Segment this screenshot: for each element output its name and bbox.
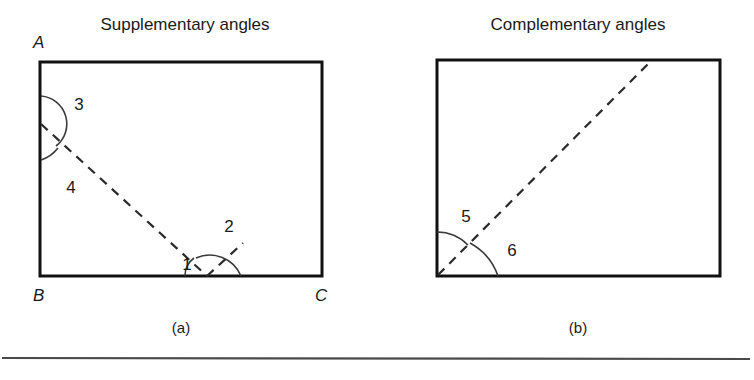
panel-a-label-angle-2: 2 [224, 217, 233, 236]
vertex-label-b: B [33, 286, 44, 305]
panel-a-arc-angle-4 [41, 148, 58, 160]
panel-a-label-angle-3: 3 [74, 95, 83, 114]
vertex-label-c: C [315, 286, 328, 305]
panel-b-dashed-diagonal [438, 64, 648, 275]
figure-canvas: Supplementary angles A 3 4 1 2 B C (a) [0, 0, 754, 380]
panel-a-label-angle-1: 1 [182, 255, 191, 274]
panel-a-arc-angle-3 [41, 96, 67, 146]
bottom-divider [2, 358, 750, 359]
panel-a-label-angle-4: 4 [66, 178, 75, 197]
panel-a-title: Supplementary angles [100, 15, 269, 34]
panel-b-rectangle [437, 60, 720, 276]
panel-a-dashed-transversal [41, 124, 207, 276]
panel-a-caption: (a) [172, 319, 190, 336]
panel-b-caption: (b) [569, 319, 587, 336]
panel-b-arc-angle-5 [437, 232, 468, 245]
panel-a-arc-angle-2 [196, 255, 241, 276]
panel-b: Complementary angles 5 6 (b) [437, 15, 720, 336]
panel-b-title: Complementary angles [491, 15, 666, 34]
panel-a: Supplementary angles A 3 4 1 2 B C (a) [32, 15, 328, 336]
vertex-label-a: A [32, 33, 44, 52]
panel-b-label-angle-6: 6 [507, 241, 516, 260]
geometry-figure: Supplementary angles A 3 4 1 2 B C (a) [0, 0, 754, 380]
panel-b-label-angle-5: 5 [461, 207, 470, 226]
panel-b-arc-angle-6 [470, 243, 498, 276]
